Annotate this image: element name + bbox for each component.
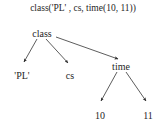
tree-node-pl: 'PL' <box>14 70 29 81</box>
edge-class-time <box>56 37 118 59</box>
tree-node-class: class <box>32 28 51 39</box>
edge-class-pl <box>24 39 37 62</box>
edge-time-10 <box>101 72 117 101</box>
edge-time-11 <box>126 72 146 101</box>
tree-node-11: 11 <box>143 110 153 121</box>
edge-class-cs <box>46 39 68 63</box>
tree-node-cs: cs <box>66 70 74 81</box>
tree-node-10: 10 <box>95 110 105 121</box>
tree-node-time: time <box>112 61 130 72</box>
tree-edges <box>0 0 166 128</box>
figure-canvas: class('PL' , cs, time(10, 11)) class 'PL… <box>0 0 166 128</box>
